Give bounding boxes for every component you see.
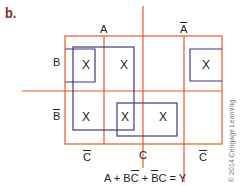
eq-result: = Y [166, 172, 186, 184]
eq-B: B [123, 172, 130, 184]
cell-r0-c0: X [82, 59, 90, 71]
eq-plus-1: + [111, 172, 124, 184]
cell-r1-c2: X [159, 111, 167, 123]
cell-r1-c0: X [82, 111, 90, 123]
eq-C-bar: C [131, 172, 139, 184]
label-B: B [53, 57, 60, 68]
cell-r1-c1: X [121, 111, 129, 123]
eq-B-bar: B [151, 172, 158, 184]
cell-r0-c3: X [202, 59, 210, 71]
label-B-bar: B [53, 111, 60, 122]
label-A: A [100, 24, 107, 35]
copyright-notice: © 2014 Cengage Learning [228, 100, 235, 182]
label-C-bar-left: C [83, 152, 91, 163]
eq-plus-2: + [139, 172, 152, 184]
boolean-equation: A + BC + BC = Y [104, 172, 186, 184]
cell-r0-c1: X [120, 59, 128, 71]
label-A-bar: A [180, 24, 187, 35]
label-C-bar-right: C [199, 152, 207, 163]
label-C: C [139, 150, 147, 161]
eq-term-A: A [104, 172, 111, 184]
group-BCbar-left [65, 49, 95, 82]
